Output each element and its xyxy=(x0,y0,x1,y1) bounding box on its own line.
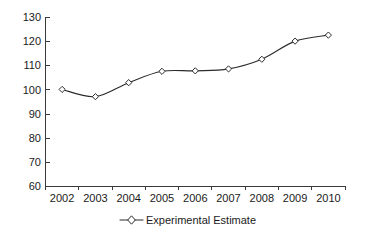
x-tick-label: 2009 xyxy=(283,192,307,204)
data-point-marker xyxy=(225,66,231,72)
x-tick-label: 2003 xyxy=(83,192,107,204)
series-line-experimental-estimate xyxy=(62,35,328,97)
x-tick-label: 2006 xyxy=(183,192,207,204)
data-point-marker xyxy=(192,68,198,74)
data-point-marker xyxy=(325,32,331,38)
x-tick-label: 2004 xyxy=(116,192,140,204)
data-point-marker xyxy=(126,80,132,86)
y-tick-labels: 130 120 110 100 90 80 70 60 xyxy=(23,11,41,192)
y-tick-label: 90 xyxy=(29,108,41,120)
series-markers-experimental-estimate xyxy=(59,32,331,100)
y-tick-label: 120 xyxy=(23,35,41,47)
y-tick-marks xyxy=(46,18,50,187)
data-point-marker xyxy=(92,94,98,100)
y-tick-label: 130 xyxy=(23,11,41,23)
data-point-marker xyxy=(159,68,165,74)
legend-label: Experimental Estimate xyxy=(146,214,256,226)
chart-canvas: 130 120 110 100 90 80 70 60 200220032004… xyxy=(0,0,367,238)
chart-legend: Experimental Estimate xyxy=(120,214,256,226)
x-tick-label: 2007 xyxy=(216,192,240,204)
legend-diamond-icon xyxy=(128,216,136,224)
y-tick-label: 60 xyxy=(29,180,41,192)
data-point-marker xyxy=(59,86,65,92)
y-tick-label: 110 xyxy=(23,59,41,71)
line-chart: 130 120 110 100 90 80 70 60 200220032004… xyxy=(0,0,367,238)
data-point-marker xyxy=(259,56,265,62)
x-tick-labels: 200220032004200520062007200820092010 xyxy=(50,192,341,204)
y-tick-label: 100 xyxy=(23,84,41,96)
y-tick-label: 80 xyxy=(29,132,41,144)
x-tick-label: 2005 xyxy=(150,192,174,204)
y-tick-label: 70 xyxy=(29,156,41,168)
x-tick-label: 2002 xyxy=(50,192,74,204)
x-tick-label: 2008 xyxy=(250,192,274,204)
x-tick-label: 2010 xyxy=(316,192,340,204)
data-point-marker xyxy=(292,38,298,44)
